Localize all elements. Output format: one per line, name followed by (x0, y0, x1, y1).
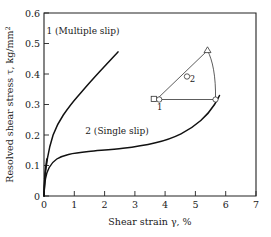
annotation-multiple-slip: 1 (Multiple slip) (47, 26, 120, 36)
y-axis-title-main: Resolved shear stress τ, kg/mm (4, 30, 15, 182)
y-tick-label: 0.1 (25, 160, 40, 171)
x-tick-label: 1 (71, 199, 77, 210)
x-tick-label: 4 (162, 199, 168, 210)
inset-edge-right (208, 51, 216, 100)
inset-label-1: 1 (157, 102, 162, 112)
y-tick-label: 0.4 (25, 69, 40, 80)
inset-edge-left (157, 51, 208, 100)
inset-marker-triangle-apex (204, 47, 211, 53)
x-tick-label: 3 (132, 199, 138, 210)
y-axis-title-superscript: 2 (4, 26, 12, 30)
inset-marker-square-1 (151, 96, 156, 101)
y-tick-label: 0.3 (25, 99, 40, 110)
y-tick-label: 0.2 (25, 130, 40, 141)
x-axis-title: Shear strain γ, % (108, 216, 191, 227)
curve-single-slip (44, 96, 220, 197)
x-tick-label: 7 (253, 199, 259, 210)
x-tick-label: 2 (102, 199, 108, 210)
chart-svg: 0 0.1 0.2 0.3 0.4 0.5 0.6 0 1 2 3 4 5 (0, 0, 271, 237)
inset-stereographic-triangle: 1 2 (151, 47, 218, 112)
x-tick-label: 6 (223, 199, 229, 210)
inset-label-2: 2 (190, 74, 195, 84)
chart-figure: 0 0.1 0.2 0.3 0.4 0.5 0.6 0 1 2 3 4 5 (0, 0, 271, 237)
inset-marker-circle-right (213, 97, 218, 102)
x-tick-label: 5 (192, 199, 198, 210)
y-axis-tick-labels: 0 0.1 0.2 0.3 0.4 0.5 0.6 (25, 8, 40, 202)
curve-multiple-slip (44, 52, 118, 196)
annotation-single-slip: 2 (Single slip) (85, 126, 148, 136)
svg-text:Resolved shear stress τ, kg/mm: Resolved shear stress τ, kg/mm2 (4, 26, 16, 182)
y-tick-label: 0.6 (25, 8, 40, 19)
x-axis-ticks (44, 191, 256, 196)
y-tick-label: 0 (34, 191, 40, 202)
x-tick-label: 0 (41, 199, 47, 210)
y-axis-title: Resolved shear stress τ, kg/mm2 (4, 26, 16, 182)
plot-frame (44, 13, 256, 196)
x-axis-tick-labels: 0 1 2 3 4 5 6 7 (41, 199, 259, 210)
y-tick-label: 0.5 (25, 38, 40, 49)
